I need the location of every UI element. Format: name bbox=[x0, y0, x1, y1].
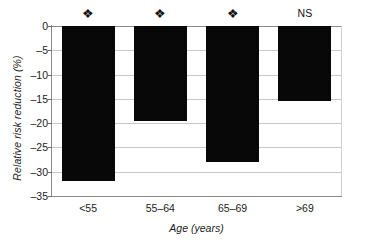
y-tick-label-6: –30 bbox=[14, 167, 48, 178]
plot-right-edge bbox=[341, 26, 342, 196]
significance-annotation-lt55: ❖ bbox=[58, 6, 118, 19]
y-tickmark-4 bbox=[48, 123, 52, 124]
y-tick-label-0: 0 bbox=[14, 21, 48, 32]
significance-diamond-icon: ❖ bbox=[82, 7, 94, 20]
y-tick-label-5: –25 bbox=[14, 142, 48, 153]
significance-diamond-icon: ❖ bbox=[227, 7, 239, 20]
y-tickmark-3 bbox=[48, 99, 52, 100]
y-tickmark-2 bbox=[48, 75, 52, 76]
significance-annotation-55-64: ❖ bbox=[130, 6, 190, 19]
y-axis-tick-labels: 0 –5 –10 –15 –20 –25 –30 –35 bbox=[10, 0, 48, 246]
x-tick-label-55-64: 55–64 bbox=[120, 202, 200, 214]
bar-55-64[interactable] bbox=[134, 26, 187, 121]
bar-chart-figure: Relative risk reduction (%) 0 –5 –10 –15… bbox=[0, 0, 365, 246]
x-tick-label-gt69: >69 bbox=[265, 202, 345, 214]
y-tick-label-4: –20 bbox=[14, 118, 48, 129]
x-tick-label-65-69: 65–69 bbox=[193, 202, 273, 214]
y-tickmark-0 bbox=[48, 26, 52, 27]
y-tick-label-7: –35 bbox=[14, 191, 48, 202]
significance-annotation-gt69: NS bbox=[275, 8, 335, 19]
y-tickmark-1 bbox=[48, 50, 52, 51]
significance-annotation-65-69: ❖ bbox=[203, 6, 263, 19]
x-axis-title: Age (years) bbox=[52, 222, 341, 234]
x-axis-spine bbox=[51, 196, 342, 197]
y-tick-label-2: –10 bbox=[14, 70, 48, 81]
y-tick-label-1: –5 bbox=[14, 45, 48, 56]
plot-area bbox=[52, 26, 341, 196]
y-tickmark-7 bbox=[48, 196, 52, 197]
x-tick-label-lt55: <55 bbox=[48, 202, 128, 214]
significance-diamond-icon: ❖ bbox=[154, 7, 166, 20]
bar-65-69[interactable] bbox=[206, 26, 259, 162]
bar-lt55[interactable] bbox=[62, 26, 115, 181]
bar-gt69[interactable] bbox=[278, 26, 331, 101]
y-tickmark-5 bbox=[48, 147, 52, 148]
y-tickmark-6 bbox=[48, 172, 52, 173]
y-tick-label-3: –15 bbox=[14, 94, 48, 105]
